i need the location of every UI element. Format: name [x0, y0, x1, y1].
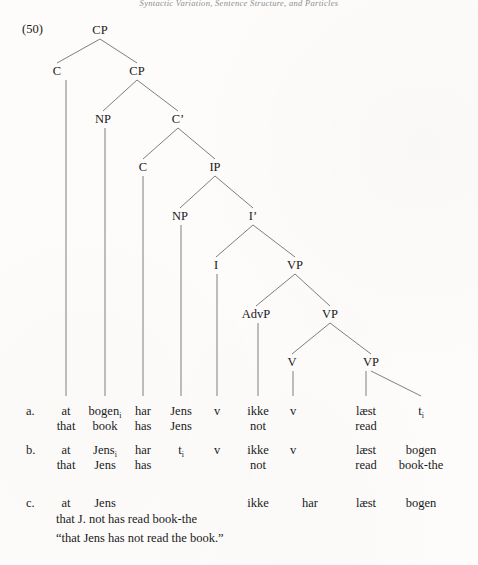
surface-token: ikke	[247, 404, 269, 418]
tree-branch	[256, 274, 295, 306]
gloss-token: read	[355, 419, 377, 433]
surface-token-text: bogen	[89, 404, 120, 418]
surface-token-text: ikke	[247, 443, 269, 457]
surface-token-text: at	[61, 496, 70, 510]
surface-token: ti	[418, 404, 424, 420]
tree-branch	[216, 225, 253, 257]
tree-branch	[137, 80, 178, 111]
surface-token-text: læst	[356, 443, 376, 457]
gloss-token: Jens	[94, 458, 116, 472]
surface-token: Jensi	[93, 443, 117, 459]
surface-token: Jens	[170, 404, 192, 418]
gloss-token: has	[135, 458, 152, 472]
tree-branch	[330, 323, 371, 354]
tree-branch	[143, 128, 178, 159]
surface-token-text: læst	[356, 404, 376, 418]
surface-token: læst	[356, 496, 376, 510]
surface-token: at	[61, 443, 70, 457]
surface-token-text: v	[290, 404, 296, 418]
surface-token: at	[61, 404, 70, 418]
syntax-tree-lines	[0, 0, 478, 565]
tree-branch	[292, 323, 330, 354]
tree-branch	[103, 80, 137, 111]
row-letter: c.	[26, 496, 35, 510]
example-page: Syntactic Variation, Sentence Structure,…	[0, 0, 478, 565]
surface-token-text: ikke	[247, 496, 269, 510]
translation-line: “that Jens has not read the book.”	[56, 531, 224, 546]
index-subscript: i	[182, 450, 184, 459]
tree-leaf-lines	[66, 80, 366, 396]
tree-node-np1: NP	[95, 113, 111, 125]
surface-token: læst	[356, 443, 376, 457]
surface-token-text: v	[214, 404, 220, 418]
surface-token: har	[135, 404, 151, 418]
surface-token: ikke	[247, 443, 269, 457]
surface-token-text: har	[135, 443, 151, 457]
surface-token: bogen	[406, 496, 437, 510]
surface-token: har	[302, 496, 318, 510]
tree-node-cp1: CP	[92, 24, 107, 36]
surface-token-text: ikke	[247, 404, 269, 418]
tree-node-vp2: VP	[322, 308, 338, 320]
surface-token: v	[290, 443, 296, 457]
tree-node-cp2: CP	[129, 65, 144, 77]
surface-token-text: at	[61, 404, 70, 418]
gloss-token: that	[57, 458, 76, 472]
tree-branch	[57, 39, 100, 63]
surface-token-text: Jens	[170, 404, 192, 418]
tree-node-v: V	[287, 356, 296, 368]
surface-token-text: bogen	[406, 443, 437, 457]
surface-token: ikke	[247, 496, 269, 510]
tree-node-ip: IP	[209, 161, 220, 173]
gloss-token: that	[57, 419, 76, 433]
tree-node-ibar: I’	[249, 210, 257, 222]
tree-branch	[215, 176, 253, 208]
gloss-token: has	[135, 419, 152, 433]
surface-token-text: bogen	[406, 496, 437, 510]
surface-token-text: v	[290, 443, 296, 457]
tree-node-i: I	[214, 259, 218, 271]
gloss-token: book	[93, 419, 118, 433]
row-letter: a.	[26, 404, 35, 418]
surface-token: bogeni	[89, 404, 122, 420]
surface-token-text: Jens	[93, 443, 115, 457]
gloss-token: not	[250, 458, 266, 472]
tree-node-c2: C	[139, 161, 147, 173]
tree-branch	[295, 274, 330, 306]
tree-node-np2: NP	[172, 210, 188, 222]
gloss-token: read	[355, 458, 377, 472]
tree-branch	[100, 39, 137, 63]
surface-token: ti	[178, 443, 184, 459]
surface-token-text: har	[135, 404, 151, 418]
surface-token: at	[61, 496, 70, 510]
trace-branch-line	[371, 371, 421, 396]
surface-token: v	[214, 443, 220, 457]
surface-token: Jens	[94, 496, 116, 510]
tree-branch	[253, 225, 295, 257]
tree-node-advp: AdvP	[242, 308, 270, 320]
row-letter: b.	[26, 443, 35, 457]
tree-node-c1: C	[53, 65, 61, 77]
index-subscript: i	[119, 411, 121, 420]
surface-token-text: at	[61, 443, 70, 457]
trace-branch	[371, 371, 421, 396]
surface-token: bogen	[406, 443, 437, 457]
tree-branch	[178, 128, 215, 159]
surface-token: v	[214, 404, 220, 418]
tree-branch	[180, 176, 215, 208]
tree-node-vp1: VP	[287, 259, 303, 271]
gloss-line: that J. not has read book-the	[56, 512, 197, 526]
tree-node-cbar: C’	[172, 113, 185, 125]
gloss-token: Jens	[170, 419, 192, 433]
surface-token: v	[290, 404, 296, 418]
gloss-token: book-the	[399, 458, 443, 472]
surface-token: læst	[356, 404, 376, 418]
surface-token-text: Jens	[94, 496, 116, 510]
surface-token-text: læst	[356, 496, 376, 510]
tree-node-vp3: VP	[363, 356, 379, 368]
surface-token-text: har	[302, 496, 318, 510]
gloss-token: not	[250, 419, 266, 433]
index-subscript: i	[422, 411, 424, 420]
surface-token-text: v	[214, 443, 220, 457]
surface-token: har	[135, 443, 151, 457]
